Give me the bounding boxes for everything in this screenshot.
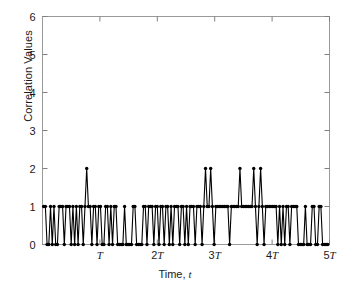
data-point — [171, 243, 174, 246]
data-point — [109, 205, 112, 208]
data-point — [82, 243, 85, 246]
data-point — [85, 167, 88, 170]
data-point — [238, 167, 241, 170]
data-point — [288, 243, 291, 246]
data-point — [94, 205, 97, 208]
data-point — [121, 243, 124, 246]
x-axis-title: Time, t — [0, 268, 350, 280]
data-point — [161, 205, 164, 208]
data-point — [150, 205, 153, 208]
data-point — [319, 205, 322, 208]
data-point — [259, 167, 262, 170]
data-point — [156, 205, 159, 208]
data-point — [199, 205, 202, 208]
data-point — [102, 243, 105, 246]
data-point — [304, 205, 307, 208]
data-point — [254, 205, 257, 208]
data-point — [166, 205, 169, 208]
data-point — [44, 205, 47, 208]
data-point — [255, 243, 258, 246]
data-point — [252, 167, 255, 170]
x-axis-title-text: Time, t — [158, 268, 191, 280]
data-point — [228, 243, 231, 246]
data-point — [192, 205, 195, 208]
data-point — [257, 205, 260, 208]
x-tick-label-3T: 3T — [209, 249, 222, 261]
data-point — [226, 205, 229, 208]
data-point — [302, 243, 305, 246]
data-point — [75, 205, 78, 208]
data-point — [51, 243, 54, 246]
data-point — [169, 205, 172, 208]
data-point — [176, 205, 179, 208]
y-axis-title: Correlation Values — [22, 0, 34, 156]
data-point — [209, 167, 212, 170]
data-point — [274, 205, 277, 208]
data-point — [99, 205, 102, 208]
correlation-values-chart: Correlation Values 0123456 T2T3T4T5T Tim… — [0, 0, 350, 291]
data-point — [207, 205, 210, 208]
data-point — [211, 205, 214, 208]
data-point — [276, 243, 279, 246]
data-point — [212, 243, 215, 246]
data-point — [204, 167, 207, 170]
data-point — [49, 205, 52, 208]
data-point — [316, 243, 319, 246]
data-point — [114, 205, 117, 208]
x-tick-label-T: T — [97, 249, 104, 261]
data-point — [133, 205, 136, 208]
data-point — [95, 243, 98, 246]
data-point — [145, 243, 148, 246]
data-point — [144, 205, 147, 208]
data-point — [237, 205, 240, 208]
data-point — [140, 243, 143, 246]
data-point — [61, 205, 64, 208]
chart-canvas: 0123456 T2T3T4T5T — [0, 0, 350, 291]
data-point — [200, 243, 203, 246]
data-point — [90, 243, 93, 246]
data-point — [88, 205, 91, 208]
data-point — [76, 243, 79, 246]
data-point — [183, 243, 186, 246]
data-point — [185, 205, 188, 208]
y-tick-label-0: 0 — [29, 239, 35, 251]
y-axis-right-ticks — [325, 17, 330, 245]
data-point — [295, 205, 298, 208]
x-tick-label-4T: 4T — [266, 249, 279, 261]
data-point — [280, 243, 283, 246]
data-point — [80, 205, 83, 208]
data-point — [262, 243, 265, 246]
x-axis-title-variable: t — [189, 268, 192, 280]
data-point — [168, 243, 171, 246]
data-point — [107, 243, 110, 246]
data-point — [56, 243, 59, 246]
data-series-correlation — [42, 167, 330, 246]
data-point — [52, 205, 55, 208]
data-point — [286, 205, 289, 208]
data-point — [130, 243, 133, 246]
data-point — [187, 243, 190, 246]
data-point — [326, 243, 329, 246]
data-point — [71, 205, 74, 208]
data-point — [178, 243, 181, 246]
x-axis-top-ticks — [100, 17, 330, 22]
data-point — [152, 243, 155, 246]
data-point — [123, 205, 126, 208]
data-point — [283, 243, 286, 246]
data-point — [309, 243, 312, 246]
data-point — [106, 205, 109, 208]
data-point — [278, 205, 281, 208]
data-point — [68, 205, 71, 208]
data-point — [281, 205, 284, 208]
data-point — [193, 243, 196, 246]
data-point — [111, 243, 114, 246]
data-point — [162, 243, 165, 246]
data-point — [73, 243, 76, 246]
data-point — [70, 243, 73, 246]
x-tick-label-2T: 2T — [151, 249, 164, 261]
data-point — [181, 205, 184, 208]
data-point — [250, 205, 253, 208]
y-tick-label-2: 2 — [29, 163, 35, 175]
data-point — [63, 243, 66, 246]
data-point — [47, 243, 50, 246]
